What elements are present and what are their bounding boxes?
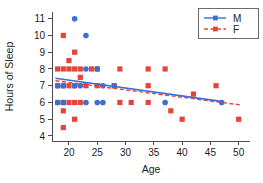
y-tick-label: 7 (39, 80, 45, 91)
data-point-male (162, 100, 168, 106)
x-axis-ticks (69, 141, 239, 145)
data-point-female (61, 66, 66, 71)
x-axis-title: Age (142, 163, 161, 175)
x-tick-label: 25 (92, 147, 104, 158)
male-trendline (55, 78, 222, 101)
x-axis-tick-labels: 20253035404550 (63, 147, 244, 158)
x-tick-label: 30 (120, 147, 132, 158)
data-point-female (78, 75, 83, 80)
data-point-female (117, 100, 122, 105)
data-point-male (94, 100, 100, 106)
data-point-female (61, 125, 66, 130)
legend-female-label: F (233, 24, 239, 35)
x-tick-label: 45 (205, 147, 217, 158)
data-point-female (61, 108, 66, 113)
data-point-male (83, 66, 89, 72)
data-point-male (61, 100, 67, 106)
y-tick-label: 9 (39, 47, 45, 58)
data-point-female (163, 66, 168, 71)
data-point-female (72, 66, 77, 71)
data-point-female (72, 50, 77, 55)
legend-male-label: M (233, 13, 241, 24)
legend-female-marker (213, 27, 218, 32)
data-point-male (55, 83, 61, 89)
data-point-female (66, 83, 71, 88)
data-point-female (236, 117, 241, 122)
data-point-female (78, 100, 83, 105)
y-tick-label: 11 (35, 13, 46, 24)
y-tick-label: 10 (34, 30, 46, 41)
data-point-female (55, 66, 60, 71)
data-point-female (61, 33, 66, 38)
data-point-female (89, 66, 94, 71)
y-axis-ticks (48, 19, 52, 136)
y-tick-label: 5 (39, 114, 45, 125)
x-tick-label: 40 (177, 147, 189, 158)
legend-male-marker (213, 16, 218, 21)
legend-box (198, 8, 258, 38)
data-point-male (83, 100, 89, 106)
data-point-male (61, 83, 67, 89)
data-point-male (83, 33, 89, 39)
data-point-female (146, 83, 151, 88)
data-point-female (78, 66, 83, 71)
data-point-female (146, 66, 151, 71)
data-point-female (180, 117, 185, 122)
legend[interactable]: M F (198, 8, 258, 38)
y-axis-title: Hours of Sleep (3, 42, 15, 112)
y-tick-label: 8 (39, 64, 45, 75)
data-point-female (72, 117, 77, 122)
scatter-chart-figure: 4567891011 20253035404550 Hours of Sleep… (0, 0, 263, 183)
x-tick-label: 20 (63, 147, 75, 158)
data-point-male (55, 100, 61, 106)
data-point-female (168, 108, 173, 113)
data-point-female (129, 100, 134, 105)
data-point-male (72, 16, 78, 22)
data-point-female (66, 66, 71, 71)
data-point-male (94, 66, 100, 72)
x-tick-label: 35 (148, 147, 160, 158)
data-point-female (66, 100, 71, 105)
y-tick-label: 6 (39, 97, 45, 108)
data-point-female (66, 58, 71, 63)
y-tick-label: 4 (39, 131, 45, 142)
data-point-female (191, 91, 196, 96)
data-point-male (100, 100, 106, 106)
chart-canvas: 4567891011 20253035404550 Hours of Sleep… (0, 0, 263, 183)
x-tick-label: 50 (233, 147, 245, 158)
data-point-female (117, 66, 122, 71)
data-point-female (213, 83, 218, 88)
data-point-female (146, 100, 151, 105)
y-axis-tick-labels: 4567891011 (34, 13, 46, 141)
data-point-female (72, 100, 77, 105)
